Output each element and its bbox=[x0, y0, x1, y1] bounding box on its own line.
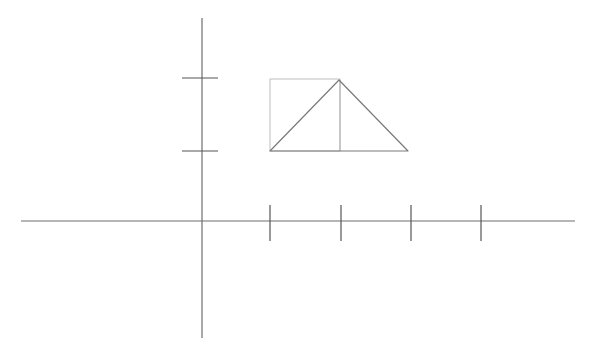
geometric-construction bbox=[270, 79, 408, 151]
y-axis-ticks bbox=[182, 78, 218, 151]
triangle-outline bbox=[270, 80, 408, 151]
diagram-svg bbox=[0, 0, 591, 351]
diagram-canvas bbox=[0, 0, 591, 351]
x-axis-ticks bbox=[270, 205, 481, 241]
axes bbox=[21, 18, 575, 338]
